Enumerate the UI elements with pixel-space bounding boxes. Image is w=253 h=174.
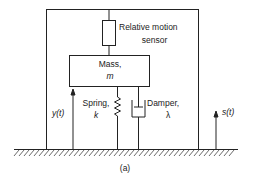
figure-caption: (a) [110, 163, 140, 173]
spring-icon [115, 97, 121, 116]
spring-label-line1: Spring, [78, 98, 114, 108]
s-label: s(t) [222, 107, 234, 117]
sensor-label-line2: sensor [119, 35, 190, 45]
damper-label-line2: λ [147, 110, 189, 120]
mass-label-line2: m [70, 71, 150, 81]
spring-label-line2: k [78, 110, 114, 120]
ground-hatching [14, 150, 234, 156]
damper-label-line1: Damper, [147, 98, 179, 108]
mass-label-line1: Mass, [70, 59, 150, 69]
sensor-label-line1: Relative motion [119, 22, 178, 32]
y-label: y(t) [52, 108, 64, 118]
sensor-box [103, 21, 116, 46]
